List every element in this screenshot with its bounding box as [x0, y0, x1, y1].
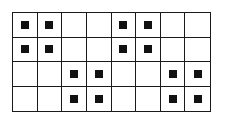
- grid-cell: [112, 38, 137, 63]
- filled-square-marker: [144, 45, 152, 53]
- grid-cell: [136, 38, 161, 63]
- grid-cell: [161, 13, 186, 38]
- filled-square-marker: [70, 70, 78, 78]
- grid-cell: [136, 13, 161, 38]
- filled-square-marker: [45, 45, 53, 53]
- grid-cell: [112, 62, 137, 87]
- grid-cell: [136, 87, 161, 112]
- grid-cell: [185, 38, 210, 63]
- filled-square-marker: [169, 70, 177, 78]
- grid-cell: [185, 13, 210, 38]
- filled-square-marker: [194, 70, 202, 78]
- grid-cell: [87, 62, 112, 87]
- grid-cell: [185, 62, 210, 87]
- pattern-grid: [12, 12, 211, 112]
- grid-cell: [185, 87, 210, 112]
- grid-cell: [13, 38, 38, 63]
- grid-cell: [112, 87, 137, 112]
- filled-square-marker: [95, 95, 103, 103]
- grid-cell: [62, 62, 87, 87]
- grid-cell: [161, 62, 186, 87]
- filled-square-marker: [70, 95, 78, 103]
- filled-square-marker: [21, 45, 29, 53]
- grid-cell: [13, 13, 38, 38]
- filled-square-marker: [119, 45, 127, 53]
- grid-cell: [13, 62, 38, 87]
- grid-cell: [38, 13, 63, 38]
- grid-cell: [62, 38, 87, 63]
- grid-cell: [136, 62, 161, 87]
- grid-cell: [161, 87, 186, 112]
- grid-cell: [87, 13, 112, 38]
- filled-square-marker: [169, 95, 177, 103]
- grid-cell: [62, 13, 87, 38]
- grid-cell: [38, 38, 63, 63]
- grid-cell: [161, 38, 186, 63]
- filled-square-marker: [194, 95, 202, 103]
- filled-square-marker: [45, 21, 53, 29]
- filled-square-marker: [21, 21, 29, 29]
- grid-cell: [13, 87, 38, 112]
- grid-cell: [87, 38, 112, 63]
- grid-cell: [38, 62, 63, 87]
- filled-square-marker: [119, 21, 127, 29]
- filled-square-marker: [95, 70, 103, 78]
- grid-cell: [87, 87, 112, 112]
- grid-cell: [62, 87, 87, 112]
- grid-cell: [112, 13, 137, 38]
- filled-square-marker: [144, 21, 152, 29]
- grid-cell: [38, 87, 63, 112]
